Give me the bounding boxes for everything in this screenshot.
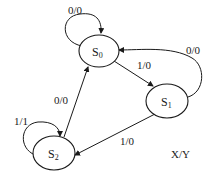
edge-label-s2-s2: 1/1 [14,115,28,127]
state-s1-label: S [161,95,168,109]
edge-label-s0-s0: 0/0 [68,4,83,16]
state-s2-label: S [48,147,55,161]
state-s0-label: S [92,45,99,59]
state-s2: S2 [33,136,75,170]
edge-label-s0-s1: 1/0 [137,59,152,71]
edge-label-s1-s0: 0/0 [186,44,201,56]
legend-xy: X/Y [171,148,190,160]
state-s0: S0 [79,35,119,67]
edge-label-s1-s2: 1/0 [120,135,135,147]
state-s1-sub: 1 [168,101,172,110]
state-diagram: 0/0 1/0 0/0 1/0 0/0 1/1 S0 S1 S2 X/Y [0,0,213,181]
state-s2-sub: 2 [55,153,59,162]
edge-label-s2-s0: 0/0 [54,94,69,106]
state-s0-sub: 0 [99,51,103,60]
state-s1: S1 [146,84,188,118]
edge-s1-s2 [75,114,155,155]
